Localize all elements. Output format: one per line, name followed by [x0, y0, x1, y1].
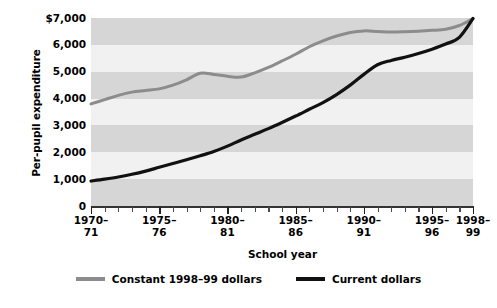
x-axis-tick	[282, 207, 283, 212]
legend-label: Current dollars	[332, 273, 421, 285]
x-axis-tick	[391, 207, 392, 212]
x-axis-tick-label: 1975– 76	[124, 215, 194, 238]
x-axis-tick	[214, 207, 215, 212]
x-axis-tick	[350, 207, 351, 212]
y-axis-tick-label: 3,000	[38, 120, 86, 131]
x-axis-tick	[309, 207, 310, 212]
x-axis-tick-label: 1985– 86	[261, 215, 331, 238]
x-axis-tick	[105, 207, 106, 212]
x-axis-tick	[187, 207, 188, 212]
x-axis-tick	[459, 207, 460, 212]
x-axis-tick	[118, 207, 119, 212]
x-axis-tick	[364, 207, 365, 214]
x-axis-tick	[173, 207, 174, 212]
x-axis-tick	[378, 207, 379, 212]
x-axis-tick-label: 1990– 91	[329, 215, 399, 238]
y-axis-tick-label: 1,000	[38, 174, 86, 185]
legend-item[interactable]: Current dollars	[296, 273, 421, 285]
x-axis-tick	[200, 207, 201, 212]
chart-legend: Constant 1998–99 dollarsCurrent dollars	[0, 273, 497, 285]
series-line	[91, 19, 473, 181]
y-axis-tick-label: 2,000	[38, 147, 86, 158]
x-axis-tick	[146, 207, 147, 212]
legend-label: Constant 1998–99 dollars	[112, 273, 262, 285]
x-axis-tick	[446, 207, 447, 212]
chart-container: Per-pupil expenditure $7,0006,0005,0004,…	[0, 0, 497, 308]
y-axis-tick-label: 4,000	[38, 93, 86, 104]
x-axis-tick	[337, 207, 338, 212]
x-axis-tick	[241, 207, 242, 212]
y-axis-tick-label: $7,000	[38, 13, 86, 24]
legend-line-swatch-icon	[76, 277, 105, 280]
series-lines	[91, 18, 473, 206]
x-axis-tick	[432, 207, 433, 214]
legend-item[interactable]: Constant 1998–99 dollars	[76, 273, 262, 285]
x-axis-tick	[323, 207, 324, 212]
y-axis-tick-label: 5,000	[38, 66, 86, 77]
x-axis-tick-label: 1970– 71	[56, 215, 126, 238]
x-axis-tick	[255, 207, 256, 212]
x-axis-tick	[132, 207, 133, 212]
x-axis-tick-label: 1980– 81	[192, 215, 262, 238]
x-axis-title: School year	[91, 248, 474, 260]
y-axis-tick-labels: $7,0006,0005,0004,0003,0002,0001,0000	[38, 0, 86, 308]
x-axis-tick	[405, 207, 406, 212]
x-axis-tick	[296, 207, 297, 214]
x-axis-tick	[473, 207, 474, 214]
x-axis-tick	[159, 207, 160, 214]
y-axis-tick-label: 6,000	[38, 39, 86, 50]
x-axis-tick	[227, 207, 228, 214]
y-axis-tick-label: 0	[38, 201, 86, 212]
legend-line-swatch-icon	[296, 277, 325, 280]
x-axis-tick	[418, 207, 419, 212]
x-axis-tick	[91, 207, 92, 214]
series-line	[91, 19, 473, 104]
plot-area	[91, 18, 473, 206]
x-axis-tick	[268, 207, 269, 212]
x-axis-tick-label: 1998– 99	[438, 215, 497, 238]
